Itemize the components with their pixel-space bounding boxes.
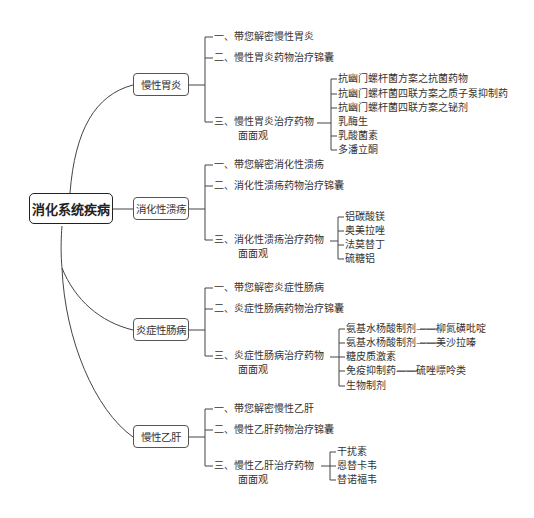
drug-item: 抗幽门螺杆菌四联方案之铋剂 — [338, 101, 468, 114]
topic-item: 一、带您解密消化性溃疡 — [214, 158, 324, 171]
drug-item: 干扰素 — [337, 445, 367, 458]
topic-item: 一、带您解密慢性胃炎 — [214, 30, 314, 43]
topic-item-line2: 面面观 — [238, 473, 268, 486]
drug-item: 抗幽门螺杆菌四联方案之质子泵抑制药 — [338, 87, 508, 100]
curve-root-to-cat0 — [70, 85, 133, 193]
root-node[interactable]: 消化系统疾病 — [29, 193, 113, 224]
topic-item-line2: 面面观 — [238, 363, 268, 376]
topic-item: 二、慢性胃炎药物治疗锦囊 — [214, 51, 334, 64]
topic-item: 二、慢性乙肝药物治疗锦囊 — [214, 423, 334, 436]
curve-root-to-cat2 — [61, 226, 133, 330]
category-node-chronic-gastritis[interactable]: 慢性胃炎 — [133, 73, 189, 96]
curve-root-to-cat3 — [62, 268, 133, 437]
drug-item: 乳酸菌素 — [338, 129, 378, 142]
topic-item: 二、消化性溃疡药物治疗锦囊 — [214, 179, 344, 192]
drug-item: 糖皮质激素 — [346, 350, 396, 363]
drug-item: 免疫抑制药——硫唑嘌呤类 — [346, 364, 466, 377]
topic-item: 一、带您解密炎症性肠病 — [214, 281, 324, 294]
topic-item-line2: 面面观 — [238, 247, 268, 260]
topic-item-line2: 面面观 — [238, 129, 268, 142]
category-node-ibd[interactable]: 炎症性肠病 — [133, 318, 189, 341]
category-node-chronic-hepatitis-b[interactable]: 慢性乙肝 — [133, 425, 189, 448]
topic-item: 三、慢性乙肝治疗药物 — [214, 459, 314, 472]
topic-item: 三、炎症性肠病治疗药物 — [214, 349, 324, 362]
drug-item: 生物制剂 — [346, 379, 386, 392]
drug-item: 替诺福韦 — [337, 473, 377, 486]
drug-item: 抗幽门螺杆菌方案之抗菌药物 — [338, 72, 468, 85]
drug-item: 铝碳酸镁 — [345, 210, 385, 223]
drug-item: 奥美拉唑 — [345, 224, 385, 237]
category-node-peptic-ulcer[interactable]: 消化性溃疡 — [133, 197, 189, 220]
topic-item: 二、炎症性肠病药物治疗锦囊 — [214, 302, 344, 315]
drug-item: 法莫替丁 — [345, 238, 385, 251]
drug-item: 硫糖铝 — [345, 252, 375, 265]
drug-item: 多潘立酮 — [338, 143, 378, 156]
drug-item: 恩替卡韦 — [337, 459, 377, 472]
drug-item: 乳酶生 — [338, 115, 368, 128]
drug-item: 氨基水杨酸制剂——美沙拉嗪 — [346, 336, 476, 349]
drug-item: 氨基水杨酸制剂——柳氮磺吡啶 — [346, 322, 486, 335]
topic-item: 一、带您解密慢性乙肝 — [214, 402, 314, 415]
topic-item: 三、消化性溃疡治疗药物 — [214, 233, 324, 246]
topic-item: 三、慢性胃炎治疗药物 — [214, 115, 314, 128]
